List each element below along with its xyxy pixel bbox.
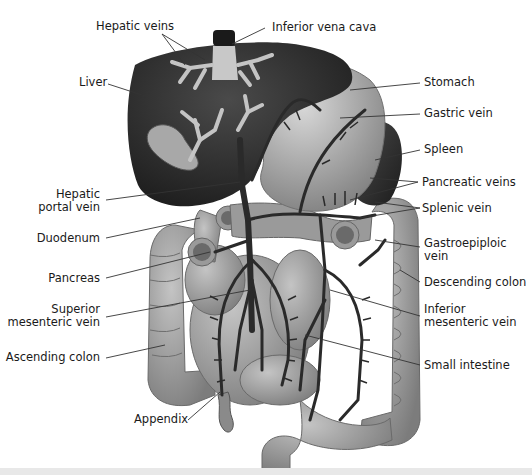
ivc-lower	[212, 46, 238, 80]
inferior-vena-cava-vessel	[213, 30, 235, 46]
label-gastric-vein: Gastric vein	[424, 107, 493, 120]
label-splenic-vein: Splenic vein	[422, 202, 492, 215]
label-pancreatic-veins: Pancreatic veins	[422, 176, 516, 189]
label-descending-colon: Descending colon	[424, 276, 526, 289]
small-intestine	[185, 245, 330, 405]
label-inferior-vena-cava: Inferior vena cava	[272, 21, 376, 34]
label-ascending-colon: Ascending colon	[6, 351, 100, 364]
label-pancreas: Pancreas	[48, 272, 100, 285]
label-hepatic-veins: Hepatic veins	[96, 20, 174, 33]
sigmoid-colon	[262, 400, 392, 470]
label-appendix: Appendix	[134, 413, 188, 426]
label-duodenum: Duodenum	[37, 232, 100, 245]
label-gastroepiploic-vein-line2: vein	[424, 250, 448, 263]
hepatic-portal-diagram: Hepatic veins Inferior vena cava Liver S…	[0, 0, 532, 475]
label-superior-mesenteric-vein-line2: mesenteric vein	[8, 316, 100, 329]
label-spleen: Spleen	[424, 143, 463, 156]
label-stomach: Stomach	[424, 76, 475, 89]
label-small-intestine: Small intestine	[424, 359, 510, 372]
label-hepatic-portal-vein-line2: portal vein	[38, 201, 100, 214]
page-bottom-edge	[0, 468, 532, 475]
label-inferior-mesenteric-vein-line2: mesenteric vein	[424, 316, 516, 329]
label-liver: Liver	[79, 76, 107, 89]
